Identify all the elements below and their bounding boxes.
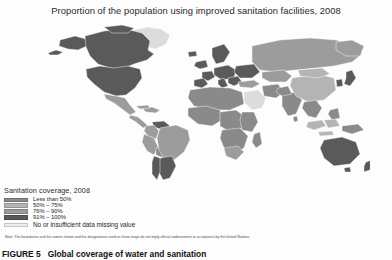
legend-swatch-less-than-50 <box>4 198 28 203</box>
legend-item-91-100[interactable]: 91% – 100% <box>4 215 234 221</box>
region-arabia[interactable] <box>244 90 266 110</box>
legend-swatch-50-75 <box>4 203 28 208</box>
region-east-africa[interactable] <box>240 112 258 132</box>
legend-label-no-data: No or insufficient data missing value <box>33 222 135 228</box>
map-title: Proportion of the population using impro… <box>0 5 392 16</box>
region-north-africa[interactable] <box>188 87 244 110</box>
world-map[interactable] <box>30 22 370 180</box>
legend-swatch-76-90 <box>4 209 28 214</box>
legend-item-no-data[interactable]: No or insufficient data missing value <box>4 221 234 228</box>
legend-swatch-no-data <box>4 223 28 228</box>
figure-caption-number: FIGURE 5 <box>2 249 41 259</box>
region-philippines[interactable] <box>328 108 340 120</box>
region-korea[interactable] <box>336 79 343 87</box>
region-indonesia-borneo[interactable] <box>324 119 340 128</box>
region-indonesia-java[interactable] <box>318 131 334 136</box>
region-aleutians[interactable] <box>48 50 63 55</box>
region-argentina[interactable] <box>158 156 176 180</box>
region-indonesia-sumatra[interactable] <box>306 120 326 130</box>
region-central-america[interactable] <box>129 115 148 128</box>
legend-swatch-91-100 <box>4 215 28 220</box>
figure-caption-text: Global coverage of water and sanitation <box>48 249 207 259</box>
legend-title: Sanitation coverage, 2008 <box>4 186 234 195</box>
region-scandinavia[interactable] <box>212 44 230 64</box>
region-cuba[interactable] <box>136 105 150 109</box>
region-central-asia[interactable] <box>262 70 292 82</box>
region-canada[interactable] <box>85 29 154 69</box>
map-note: Note: The boundaries and the names shown… <box>5 235 387 239</box>
region-mainland-southeast-asia[interactable] <box>302 100 322 118</box>
figure-world-sanitation-map: Proportion of the population using impro… <box>0 0 392 260</box>
region-japan[interactable] <box>344 70 356 86</box>
region-mexico[interactable] <box>104 94 136 115</box>
region-alaska[interactable] <box>59 36 87 50</box>
region-west-africa[interactable] <box>188 106 222 126</box>
region-australia[interactable] <box>320 137 360 166</box>
legend-label-91-100: 91% – 100% <box>33 215 66 221</box>
region-chile[interactable] <box>152 156 160 180</box>
region-uk-ireland[interactable] <box>194 60 208 69</box>
region-tasmania[interactable] <box>344 167 351 172</box>
world-map-svg[interactable] <box>30 22 370 180</box>
region-iceland[interactable] <box>188 51 197 57</box>
region-italy[interactable] <box>218 78 228 88</box>
region-new-guinea[interactable] <box>342 124 364 134</box>
map-legend: Sanitation coverage, 2008 Less than 50% … <box>4 186 234 229</box>
region-brazil[interactable] <box>157 125 190 160</box>
region-madagascar[interactable] <box>252 132 262 148</box>
figure-caption: FIGURE 5Global coverage of water and san… <box>2 249 390 259</box>
region-new-zealand[interactable] <box>364 160 370 172</box>
region-united-states[interactable] <box>86 66 142 96</box>
region-sri-lanka[interactable] <box>293 116 298 122</box>
